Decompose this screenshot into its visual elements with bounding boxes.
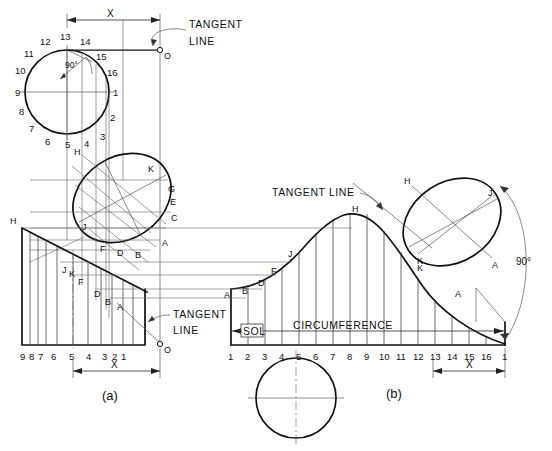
ellipse-a-label-F: F <box>100 244 106 254</box>
circle-number-1: 1 <box>113 87 118 98</box>
scale-b-10: 10 <box>379 351 390 362</box>
scale-a-1: 1 <box>121 351 126 362</box>
scale-a-5: 5 <box>69 351 74 362</box>
scale-b-1: 1 <box>228 351 233 362</box>
dim-label-x-top: X <box>107 8 114 19</box>
ellipse-a-label-H: H <box>74 147 81 157</box>
development-a-group: H J K F D B A O TANGENT LINE <box>10 216 227 355</box>
ellipse-b-label-A: A <box>492 260 498 270</box>
point-o-a-label: O <box>164 345 171 355</box>
inclined-circle-view-b-group: H J A K 90° <box>387 160 532 340</box>
dev-b-label-H: H <box>352 204 359 214</box>
ellipse-a-label-A: A <box>162 238 168 248</box>
circle-number-10: 10 <box>15 65 26 76</box>
dev-b-label-D: D <box>258 278 265 288</box>
dim-arrow-right-top <box>151 17 160 23</box>
circumference-label: CIRCUMFERENCE <box>293 319 393 331</box>
scale-b-2: 2 <box>245 351 250 362</box>
tangent-label-a: TANGENT <box>173 308 227 320</box>
ellipse-a-label-G: G <box>168 184 175 194</box>
circle-number-13: 13 <box>60 31 71 42</box>
ellipse-b-label-K: K <box>417 256 423 266</box>
circle-number-11: 11 <box>24 48 34 59</box>
dev-b-label-J: J <box>288 249 293 259</box>
scale-b-13: 13 <box>430 351 441 362</box>
scale-a-7: 7 <box>38 351 43 362</box>
scale-b-14: 14 <box>447 351 458 362</box>
tangent-straight-b <box>353 183 432 248</box>
circle-number-16: 16 <box>107 67 118 78</box>
development-a-outline <box>22 228 145 345</box>
scale-a-4: 4 <box>86 351 91 362</box>
dev-a-label-F: F <box>78 277 84 287</box>
ellipse-a-label-B: B <box>135 250 141 260</box>
circumference-arrow-right <box>494 328 504 334</box>
sol-label: SOL <box>243 325 266 337</box>
circle-number-14: 14 <box>80 36 91 47</box>
scale-a-3: 3 <box>102 351 107 362</box>
scale-b-8: 8 <box>347 351 352 362</box>
scale-b-5: 5 <box>296 351 301 362</box>
dev-b-label-B: B <box>242 286 248 296</box>
scale-b-3: 3 <box>262 351 267 362</box>
dim-arrow-left-top <box>67 17 76 23</box>
tangent-label-top-2: LINE <box>189 35 215 47</box>
scale-b-7: 7 <box>330 351 335 362</box>
circle-number-12: 12 <box>40 36 51 47</box>
figure-caption-b: (b) <box>386 386 402 401</box>
angle-arrowhead <box>60 73 66 79</box>
circle-number-2: 2 <box>110 112 115 123</box>
ellipse-a-label-D: D <box>117 248 124 258</box>
ellipse-a-label-E: E <box>170 197 176 207</box>
dev-a-label-J: J <box>62 265 67 275</box>
generating-circle-bottom-group <box>248 350 344 446</box>
circle-number-3: 3 <box>100 131 105 142</box>
figure-caption-a: (a) <box>102 388 118 403</box>
generating-circle-numbers: 1 2 3 4 5 6 7 8 9 10 11 12 13 14 15 16 9… <box>15 31 118 150</box>
development-a-slope <box>22 228 147 292</box>
circle-angle-90-label: 90° <box>65 60 78 70</box>
circle-number-15: 15 <box>96 51 107 62</box>
tangent-arrow-a <box>148 316 155 322</box>
tangent-label-a-2: LINE <box>173 324 199 336</box>
ellipse-a-label-K: K <box>148 164 154 174</box>
scale-b-9: 9 <box>364 351 369 362</box>
circle-number-8: 8 <box>19 106 24 117</box>
ellipse-a-point-labels: H K G E C A B D F J <box>74 147 178 260</box>
point-o-top <box>157 47 162 52</box>
angle-90-label-right: 90° <box>516 256 531 267</box>
scale-a-8: 8 <box>29 351 34 362</box>
circle-number-4: 4 <box>84 138 89 149</box>
dev-a-label-D: D <box>94 289 101 299</box>
tangent-leader-top <box>152 29 186 46</box>
scale-b-12: 12 <box>413 351 424 362</box>
scale-b-1b: 1 <box>502 351 507 362</box>
circle-number-5: 5 <box>65 139 70 150</box>
drawing-canvas: 1 2 3 4 5 6 7 8 9 10 11 12 13 14 15 16 9… <box>0 0 552 451</box>
circle-number-6: 6 <box>45 136 50 147</box>
dev-a-label-H: H <box>10 216 17 226</box>
dev-b-label-A2: A <box>455 289 461 299</box>
circle-number-7: 7 <box>29 123 34 134</box>
point-o-top-label: O <box>164 51 171 61</box>
tangent-label-b: TANGENT LINE <box>272 186 355 198</box>
tangent-line-a <box>117 303 160 343</box>
engineering-drawing: 1 2 3 4 5 6 7 8 9 10 11 12 13 14 15 16 9… <box>0 0 552 451</box>
dev-a-label-K: K <box>69 269 75 279</box>
ellipse-b-point-labels: H J A K <box>404 176 498 270</box>
scale-b-16: 16 <box>481 351 492 362</box>
dev-b-label-F: F <box>271 266 277 276</box>
dim-label-x-bottom-right: X <box>466 359 473 370</box>
transfer-projectors <box>22 228 352 298</box>
dim-label-x-bottom-left: X <box>111 359 118 370</box>
dev-a-label-B: B <box>105 297 111 307</box>
angle-90-arrow-top <box>500 186 509 193</box>
tangent-annotation-b: TANGENT LINE <box>272 183 432 248</box>
scale-a-9: 9 <box>20 351 25 362</box>
ellipse-b-label-J: J <box>488 188 493 198</box>
circumference-dimension-group: CIRCUMFERENCE SOL <box>232 319 504 337</box>
development-b-point-labels: A B D F J H K A <box>224 204 461 300</box>
scale-b-11: 11 <box>396 351 406 362</box>
tangent-label-top: TANGENT <box>189 18 243 30</box>
dev-b-label-A: A <box>224 290 230 300</box>
